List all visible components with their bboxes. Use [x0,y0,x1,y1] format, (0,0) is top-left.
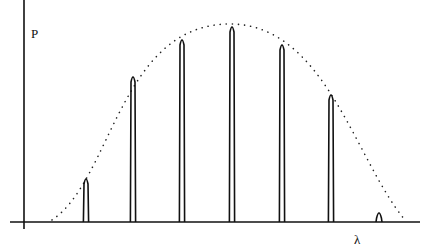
spectral-line-7 [376,213,382,222]
x-axis-label: λ [354,232,360,248]
spectral-line-6 [328,95,333,222]
spectrum-diagram [0,0,435,252]
spectral-line-3 [179,40,184,222]
envelope-curve [52,24,405,220]
spectral-line-2 [130,77,135,222]
y-axis-label: P [31,26,38,42]
spectral-line-4 [229,27,234,222]
spectral-line-1 [83,179,88,222]
spectral-lines [83,27,382,222]
spectral-line-5 [279,45,284,222]
